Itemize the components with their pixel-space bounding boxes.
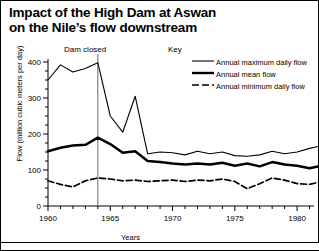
- svg-text:1980: 1980: [288, 214, 306, 223]
- svg-text:400: 400: [28, 58, 42, 67]
- svg-text:1965: 1965: [101, 214, 119, 223]
- svg-text:300: 300: [28, 94, 42, 103]
- svg-text:100: 100: [28, 166, 42, 175]
- svg-text:1975: 1975: [226, 214, 244, 223]
- figure-bottom-rule: [1, 242, 319, 250]
- svg-text:200: 200: [28, 130, 42, 139]
- chart-tick-labels: 010020030040019601965197019751980: [28, 58, 307, 223]
- chart-series-lines: [48, 63, 319, 189]
- chart-figure: Impact of the High Dam at Aswan on the N…: [0, 0, 319, 251]
- svg-text:1960: 1960: [39, 214, 57, 223]
- chart-axes: [43, 59, 319, 211]
- svg-text:1970: 1970: [164, 214, 182, 223]
- chart-plot-area: 010020030040019601965197019751980: [1, 1, 319, 251]
- svg-text:0: 0: [37, 202, 42, 211]
